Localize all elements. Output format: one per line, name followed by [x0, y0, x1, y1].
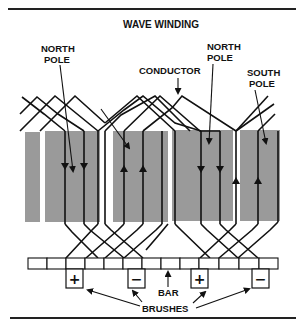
pole-block-1	[25, 132, 40, 222]
plus-icon: +	[69, 271, 81, 287]
label-north-pole-right: NORTH POLE	[207, 41, 243, 63]
commutator-segment	[142, 258, 161, 269]
commutator-bar	[28, 258, 278, 269]
commutator-segment	[28, 258, 47, 269]
commutator-segment	[259, 258, 278, 269]
upper-end-connections	[20, 96, 275, 131]
leader-brush-3	[193, 292, 205, 303]
commutator-segment	[47, 258, 66, 269]
commutator-segment	[180, 258, 199, 269]
commutator-segment	[199, 258, 219, 269]
leader-brush-4	[196, 289, 249, 308]
commutator-segment	[219, 258, 239, 269]
label-bar: BAR	[158, 287, 179, 298]
brush-positive-2: +	[191, 269, 208, 288]
plus-icon: +	[194, 271, 206, 287]
label-north-pole-left: NORTH POLE	[41, 43, 77, 65]
brush-negative-2: −	[252, 269, 269, 288]
commutator-segment	[239, 258, 259, 269]
pole-block-4	[172, 130, 233, 221]
brush-positive-1: +	[66, 269, 83, 288]
commutator-segment	[104, 258, 123, 269]
label-south-pole: SOUTH POLE	[247, 67, 283, 89]
lower-end-connections	[65, 222, 278, 258]
commutator-segment	[123, 258, 142, 269]
commutator-segment	[66, 258, 85, 269]
leader-brush-1	[88, 290, 140, 306]
leader-brush-2	[133, 291, 142, 302]
label-brushes: BRUSHES	[142, 303, 188, 314]
pole-blocks	[25, 130, 280, 222]
commutator-segment	[161, 258, 180, 269]
commutator-segment	[85, 258, 104, 269]
wave-winding-diagram: WAVE WINDING	[0, 0, 300, 330]
pole-block-3	[113, 131, 168, 222]
arrow-up-icon	[232, 177, 240, 184]
brush-negative-1: −	[128, 269, 145, 288]
minus-icon: −	[255, 271, 267, 287]
pole-block-2	[45, 131, 100, 222]
minus-icon: −	[131, 271, 143, 287]
pole-block-5	[240, 130, 280, 221]
label-conductor: CONDUCTOR	[139, 65, 201, 76]
diagram-title: WAVE WINDING	[123, 19, 199, 30]
